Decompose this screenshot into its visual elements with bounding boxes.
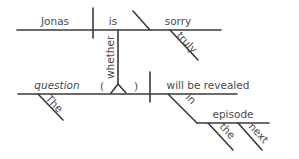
- predicate-adjective-divider: [133, 11, 150, 30]
- connector-whether: whether: [104, 35, 116, 79]
- modifier-the: The: [43, 91, 66, 114]
- object-episode: episode: [212, 108, 253, 120]
- verb-will-be-revealed: will be revealed: [167, 79, 250, 91]
- paren-open: (: [100, 80, 104, 92]
- modifier-truly: truly: [175, 29, 200, 55]
- paren-close: ): [134, 80, 138, 92]
- subject-question: question: [34, 79, 79, 91]
- modifier-next: next: [247, 120, 272, 145]
- pedestal-foot: [111, 84, 126, 93]
- verb-is: is: [109, 15, 117, 27]
- predicate-sorry: sorry: [165, 15, 192, 27]
- subject-jonas: Jonas: [40, 15, 69, 27]
- sentence-diagram: Jonas is sorry truly whether ( ) questio…: [0, 0, 299, 159]
